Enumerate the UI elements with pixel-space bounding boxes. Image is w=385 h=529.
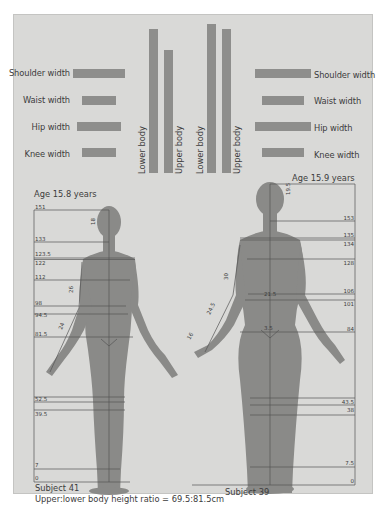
svg-text:84: 84	[347, 326, 354, 332]
left-subject-label: Subject 41	[35, 483, 79, 493]
svg-text:3.5: 3.5	[264, 325, 273, 331]
svg-text:16: 16	[186, 331, 195, 340]
right-subject-label: Subject 39	[225, 487, 269, 497]
svg-text:94.5: 94.5	[35, 312, 48, 318]
svg-text:151: 151	[35, 204, 46, 210]
svg-text:26: 26	[68, 286, 74, 293]
svg-text:112: 112	[35, 274, 46, 280]
svg-text:7: 7	[35, 462, 39, 468]
svg-text:24: 24	[57, 321, 65, 330]
svg-text:0: 0	[351, 478, 355, 484]
height-ratio-label: Upper:lower body height ratio = 69.5:81.…	[35, 494, 224, 504]
svg-text:7.5: 7.5	[345, 460, 354, 466]
svg-text:135: 135	[344, 232, 355, 238]
svg-text:123.5: 123.5	[35, 251, 51, 257]
svg-text:18: 18	[90, 218, 96, 225]
svg-text:43.5: 43.5	[342, 399, 355, 405]
svg-text:134: 134	[344, 241, 355, 247]
right-scale-labels: 153 135 134 128 106 101 84 43.5 38 7.5 0	[342, 215, 355, 484]
svg-text:21.5: 21.5	[264, 291, 277, 297]
svg-text:122: 122	[35, 260, 46, 266]
svg-text:106: 106	[344, 288, 355, 294]
svg-text:0: 0	[35, 475, 39, 481]
svg-text:39.5: 39.5	[35, 411, 48, 417]
svg-text:153: 153	[344, 215, 355, 221]
svg-text:30: 30	[223, 273, 229, 280]
figure-drawings: 151 133 123.5 122 112 98 94.5 81.5 52.5 …	[0, 0, 385, 529]
svg-text:133: 133	[35, 236, 46, 242]
svg-text:101: 101	[344, 301, 355, 307]
svg-text:52.5: 52.5	[35, 396, 48, 402]
svg-text:98: 98	[35, 300, 42, 306]
svg-text:128: 128	[344, 260, 355, 266]
svg-text:19.5: 19.5	[285, 182, 291, 195]
svg-text:24.5: 24.5	[205, 301, 216, 315]
left-figure	[46, 206, 178, 495]
svg-text:81.5: 81.5	[35, 331, 48, 337]
svg-text:38: 38	[347, 407, 354, 413]
